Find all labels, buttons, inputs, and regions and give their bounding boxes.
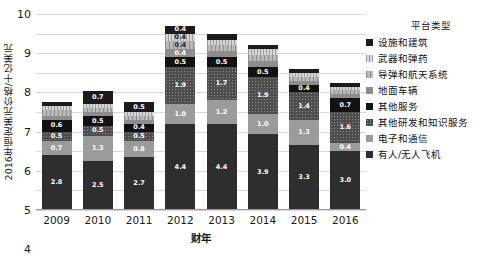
bar-segment-value: 0.5 (92, 118, 104, 125)
bar-segment[interactable]: 1.0 (165, 104, 195, 124)
bar-column[interactable]: 0.51.91.03.9 (248, 14, 278, 210)
legend-label: 其他研发和知识服务 (378, 118, 468, 128)
legend-item[interactable]: 其他服务 (366, 102, 482, 112)
bar-segment[interactable]: 3.3 (289, 145, 319, 210)
bar-segment[interactable]: 0.5 (42, 132, 72, 142)
bar-segment[interactable]: 3.9 (248, 134, 278, 210)
legend-label: 电子和通信 (378, 134, 428, 144)
bar-segment[interactable]: 0.5 (124, 102, 154, 112)
grid-line: 0 (36, 210, 366, 211)
legend-swatch-icon (366, 71, 373, 78)
legend-item[interactable]: 电子和通信 (366, 134, 482, 144)
bar-column[interactable]: 0.41.41.33.3 (289, 14, 319, 210)
bar-segment-value: 0.5 (216, 59, 228, 66)
legend-item[interactable]: 武器和弹药 (366, 54, 482, 64)
bar-segment[interactable]: 2.5 (83, 161, 113, 210)
bar-column[interactable]: 0.71.60.43.0 (330, 14, 360, 210)
x-axis-tick-label: 2013 (207, 215, 237, 226)
bar-segment-value: 0.5 (133, 133, 145, 140)
legend-item[interactable]: 设施和建筑 (366, 38, 482, 48)
bar-segment[interactable]: 1.3 (83, 136, 113, 161)
bar-column[interactable]: 0.60.50.72.8 (42, 14, 72, 210)
bar-segment[interactable]: 1.6 (330, 112, 360, 143)
bar-segment-value: 1.6 (340, 124, 352, 131)
bar-segment[interactable]: 0.4 (165, 26, 195, 34)
bar-segment[interactable]: 2.7 (124, 157, 154, 210)
bar-segment[interactable]: 0.5 (248, 67, 278, 77)
bar-segment-value: 0.5 (51, 133, 63, 140)
bar-segment[interactable]: 0.4 (165, 34, 195, 42)
bar-column[interactable]: 0.50.40.50.82.7 (124, 14, 154, 210)
bar-segment[interactable]: 0.7 (330, 98, 360, 112)
legend-label: 地面车辆 (378, 86, 418, 96)
legend-swatch-icon (366, 151, 373, 158)
bar-segment[interactable]: 1.9 (165, 67, 195, 104)
bar-segment[interactable]: 0.7 (42, 141, 72, 155)
bar-segment-value: 0.4 (175, 34, 187, 41)
bar-segment[interactable]: 0.4 (124, 124, 154, 132)
legend-item[interactable]: 导弹和航天系统 (366, 70, 482, 80)
legend-item[interactable]: 其他研发和知识服务 (366, 118, 482, 128)
bar-segment[interactable]: 1.0 (248, 114, 278, 134)
bar-segment[interactable]: 1.7 (207, 67, 237, 100)
bar-segment-value: 1.9 (175, 82, 187, 89)
y-axis-title: 2016年恒定美元价格/十亿美元 (2, 14, 16, 210)
bar-segment-value: 0.4 (298, 85, 310, 92)
bar-segment[interactable]: 1.2 (207, 100, 237, 124)
bar-segment[interactable]: 1.4 (289, 92, 319, 119)
x-axis-tick-label: 2010 (83, 215, 113, 226)
legend-label: 设施和建筑 (378, 38, 428, 48)
y-axis-tick-label: 8 (24, 87, 31, 98)
bar-segment[interactable]: 2.8 (42, 155, 72, 210)
legend: 平台类型 设施和建筑武器和弹药导弹和航天系统地面车辆其他服务其他研发和知识服务电… (366, 18, 482, 166)
bar-segment-value: 3.3 (298, 174, 310, 181)
legend-item[interactable]: 地面车辆 (366, 86, 482, 96)
bar-segment-value: 0.4 (175, 42, 187, 49)
legend-swatch-icon (366, 135, 373, 142)
bar-segment[interactable]: 0.5 (207, 57, 237, 67)
bar-segment-value: 0.4 (340, 144, 352, 151)
y-axis-title-text: 2016年恒定美元价格/十亿美元 (2, 43, 16, 180)
bar-segment[interactable]: 4.4 (207, 124, 237, 210)
bar-segment[interactable]: 1.3 (289, 120, 319, 145)
bar-segment-value: 0.4 (175, 26, 187, 33)
chart-container: 2016年恒定美元价格/十亿美元 012345678910 0.60.50.72… (0, 0, 482, 272)
bar-segment[interactable]: 0.4 (289, 85, 319, 93)
bar-segment[interactable]: 4.4 (165, 124, 195, 210)
bar-segment[interactable]: 0.5 (165, 57, 195, 67)
bar-segment[interactable]: 0.6 (42, 120, 72, 132)
bar-column[interactable]: 0.70.50.51.32.5 (83, 14, 113, 210)
bar-segment-value: 3.0 (340, 177, 352, 184)
y-axis-tick-label: 6 (24, 165, 31, 176)
bar-column[interactable]: 0.51.71.24.4 (207, 14, 237, 210)
bar-segment-value: 0.5 (133, 104, 145, 111)
bar-segment[interactable]: 0.4 (165, 49, 195, 57)
x-axis-line (36, 209, 366, 210)
bar-segment-value: 0.5 (92, 127, 104, 134)
bar-segment[interactable]: 0.5 (83, 116, 113, 126)
bar-segment-value: 0.8 (133, 146, 145, 153)
bar-segment-value: 1.3 (298, 129, 310, 136)
bar-segment[interactable]: 1.9 (248, 77, 278, 114)
legend-item[interactable]: 有人/无人飞机 (366, 150, 482, 160)
bar-segment[interactable]: 0.4 (165, 41, 195, 49)
legend-swatch-icon (366, 119, 373, 126)
bar-segment[interactable]: 0.7 (83, 91, 113, 105)
bar-segment-value: 1.0 (175, 111, 187, 118)
x-axis-tick-labels: 20092010201120122013201420152016 (36, 212, 366, 228)
bar-segment[interactable]: 0.5 (124, 132, 154, 142)
bar-segment[interactable]: 0.4 (330, 143, 360, 151)
legend-title: 平台类型 (380, 18, 482, 32)
bar-segment[interactable]: 0.5 (83, 126, 113, 136)
bar-segment[interactable]: 3.0 (330, 151, 360, 210)
x-axis-tick-label: 2014 (248, 215, 278, 226)
y-axis-tick-label: 7 (24, 126, 31, 137)
bar-column[interactable]: 0.40.40.40.40.51.91.04.4 (165, 14, 195, 210)
bar-segment[interactable]: 0.8 (124, 141, 154, 157)
bar-segment-value: 1.7 (216, 80, 228, 87)
bar-segment-value: 1.4 (298, 103, 310, 110)
bar-segment-value: 0.5 (257, 69, 269, 76)
x-axis-tick-label: 2011 (124, 215, 154, 226)
bar-segment-value: 0.4 (133, 124, 145, 131)
legend-items: 设施和建筑武器和弹药导弹和航天系统地面车辆其他服务其他研发和知识服务电子和通信有… (366, 38, 482, 160)
